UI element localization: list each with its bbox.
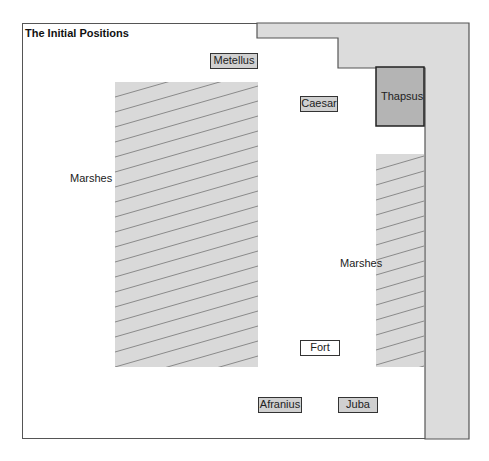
thapsus-label: Thapsus [381,90,423,102]
unit-afranius: Afranius [258,397,302,413]
marsh-left [115,56,258,412]
marsh-right [376,154,424,380]
marsh-left-label: Marshes [70,172,112,184]
unit-fort: Fort [300,340,340,356]
unit-caesar: Caesar [300,96,338,112]
map-canvas: The Initial Positions Thapsus Marshes Ma… [0,0,489,461]
marsh-right-label: Marshes [340,257,382,269]
sea-region [257,23,469,439]
unit-metellus: Metellus [210,53,258,69]
map-title: The Initial Positions [25,27,129,39]
unit-juba: Juba [338,397,378,413]
map-graphics [0,0,489,461]
